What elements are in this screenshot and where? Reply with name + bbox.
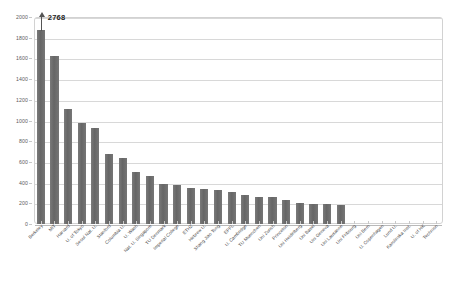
bar [91,128,99,224]
bar [50,56,58,224]
y-axis: 0200400600800100012001400160018002000 [0,17,32,224]
y-axis-tick-mark [29,58,32,59]
x-axis-tick-mark [286,221,287,224]
y-axis-tick-mark [29,183,32,184]
bars-layer [34,17,443,224]
x-axis-tick-mark [382,221,383,224]
y-axis-tick-label: 1800 [16,35,28,41]
x-axis-labels: BerkeleyMITHarvardU. of TokyoSeoul Nat. … [34,224,443,290]
y-axis-tick-mark [29,224,32,225]
y-axis-tick-mark [29,141,32,142]
x-axis-tick-mark [245,221,246,224]
bar [119,158,127,224]
truncation-value-label: 2768 [48,13,66,22]
bar [228,192,236,224]
x-axis-tick-mark [395,221,396,224]
bar [214,190,222,224]
x-axis-tick-mark [177,221,178,224]
x-axis-tick-mark [41,221,42,224]
x-axis-tick-mark [409,221,410,224]
y-axis-tick-label: 400 [19,180,28,186]
bar [37,30,45,224]
x-axis-tick-mark [313,221,314,224]
x-axis-tick-mark [82,221,83,224]
bar [78,123,86,224]
bar [255,197,263,224]
y-axis-tick-label: 1200 [16,97,28,103]
y-axis-tick-label: 1000 [16,118,28,124]
x-axis-tick-label: MIT [49,224,58,233]
bar-chart: 0200400600800100012001400160018002000 27… [0,0,453,290]
x-axis-tick-label: Berkeley [28,224,44,240]
x-axis-tick-mark [164,221,165,224]
bar [173,185,181,224]
x-axis-tick-mark [136,221,137,224]
y-axis-tick-label: 1400 [16,76,28,82]
y-axis-tick-mark [29,17,32,18]
y-axis-tick-label: 800 [19,138,28,144]
x-axis-tick-mark [95,221,96,224]
x-axis-tick-mark [68,221,69,224]
x-axis-tick-mark [54,221,55,224]
y-axis-tick-label: 200 [19,200,28,206]
x-axis-tick-mark [204,221,205,224]
x-axis-tick-mark [109,221,110,224]
bar [241,195,249,224]
x-axis-tick-mark [191,221,192,224]
x-axis-tick-mark [300,221,301,224]
x-axis-tick-mark [218,221,219,224]
bar [187,188,195,224]
x-axis-tick-mark [259,221,260,224]
x-axis-tick-mark [273,221,274,224]
x-axis-tick-mark [327,221,328,224]
x-axis-tick-mark [150,221,151,224]
bar [132,172,140,224]
y-axis-tick-mark [29,203,32,204]
bar [64,109,72,224]
bar [159,184,167,224]
x-axis-tick-mark [232,221,233,224]
y-axis-tick-mark [29,79,32,80]
y-axis-tick-mark [29,121,32,122]
x-axis-tick-mark [368,221,369,224]
bar [105,154,113,224]
x-axis-tick-mark [436,221,437,224]
x-axis-tick-mark [123,221,124,224]
x-axis-tick-mark [354,221,355,224]
y-axis-tick-mark [29,100,32,101]
y-axis-tick-label: 1600 [16,55,28,61]
x-axis-tick-mark [423,221,424,224]
y-axis-tick-label: 2000 [16,14,28,20]
y-axis-tick-label: 600 [19,159,28,165]
y-axis-tick-label: 0 [25,221,28,227]
bar [268,197,276,224]
x-axis-tick-mark [341,221,342,224]
y-axis-tick-mark [29,162,32,163]
bar [146,176,154,224]
bar [200,189,208,224]
y-axis-tick-mark [29,38,32,39]
